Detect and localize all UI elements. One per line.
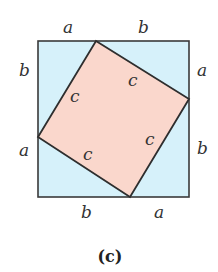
label-left-a: a: [19, 140, 29, 160]
label-top-b: b: [138, 17, 149, 37]
label-top-a: a: [63, 17, 73, 37]
label-bottom-b: b: [81, 202, 92, 222]
label-left-b: b: [19, 60, 30, 80]
label-right-a: a: [197, 60, 207, 80]
label-c-lower-left: c: [83, 144, 93, 164]
figure-caption: (c): [98, 247, 123, 266]
label-c-upper-left: c: [70, 86, 80, 106]
pythagorean-proof-diagram: a b b a a b b a c c c c (c): [0, 0, 218, 272]
label-bottom-a: a: [154, 202, 164, 222]
label-c-lower-right: c: [145, 129, 155, 149]
label-right-b: b: [197, 138, 208, 158]
label-c-upper-right: c: [128, 70, 138, 90]
